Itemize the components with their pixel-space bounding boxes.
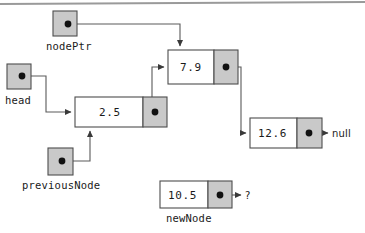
node-pointer-dot-10-5 [217,192,224,199]
node-pointer-dot-12-6 [306,130,313,137]
pointer-variable-head: head [5,64,31,106]
list-node-7-9: 7.9 [168,50,238,84]
pointer-label-head: head [5,94,31,106]
node-value-7-9: 7.9 [180,61,202,74]
linked-list-diagram: nodePtr head previousNode 2.5 7.9 [0,0,365,233]
list-node-12-6: 12.6 [250,118,322,148]
node-pointer-dot-7-9 [223,64,230,71]
node-value-12-6: 12.6 [258,127,287,140]
node-label-newnode: newNode [166,212,212,224]
list-node-2-5: 2.5 [75,97,167,127]
pointer-label-nodeptr: nodePtr [46,40,92,52]
pointer-label-previousnode: previousNode [22,179,100,191]
pointer-dot-nodeptr [65,21,72,28]
pointer-dot-head [19,73,26,80]
node-value-2-5: 2.5 [99,106,121,119]
pointer-variable-previousnode: previousNode [22,148,100,191]
pointer-dot-previousnode [59,158,66,165]
node-value-10-5: 10.5 [168,189,197,202]
node-pointer-dot-2-5 [152,109,159,116]
unknown-terminator-label: ? [245,190,251,201]
pointer-variable-nodeptr: nodePtr [46,11,92,52]
diagram-canvas: nodePtr head previousNode 2.5 7.9 [0,0,365,233]
null-terminator-label: null [332,128,351,139]
list-node-10-5: 10.5 newNode [160,181,232,224]
page-top-rule [0,2,365,4]
